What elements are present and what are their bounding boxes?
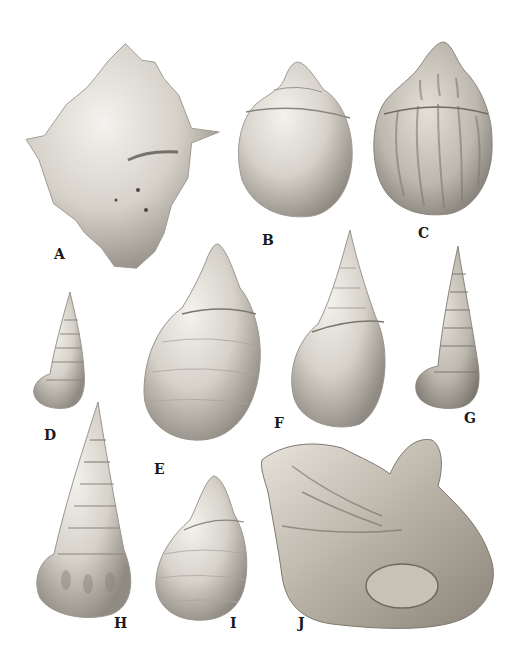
specimen-e-ovate-shell (142, 242, 262, 442)
specimen-g-turreted-shell (414, 244, 484, 410)
label-f: F (274, 416, 284, 430)
label-j: J (298, 616, 305, 630)
specimen-h-tall-turreted-shell (36, 400, 140, 620)
label-h: H (114, 616, 127, 630)
specimen-d-turreted-shell (30, 290, 90, 410)
specimen-b-globose-shell (234, 60, 354, 220)
specimen-f-ovate-conical-shell (290, 228, 390, 428)
label-a: A (54, 247, 65, 261)
fossil-plate: A B C D (0, 0, 522, 662)
specimen-c-ribbed-shell (368, 40, 498, 220)
specimen-i-ovate-shell (154, 474, 250, 622)
label-g: G (464, 411, 476, 425)
label-b: B (262, 233, 274, 247)
specimen-j-oyster-fragment (262, 436, 502, 632)
label-i: I (230, 616, 237, 630)
label-c: C (418, 226, 429, 240)
